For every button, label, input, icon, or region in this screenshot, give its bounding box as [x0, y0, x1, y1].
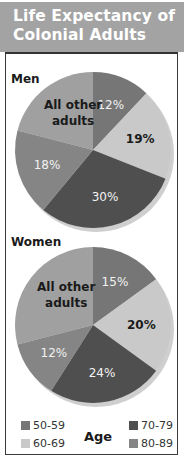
legend-title: Age [84, 429, 112, 444]
slice-label: 24% [89, 366, 116, 380]
slice-label: adults [45, 296, 87, 310]
swatch-60-69 [21, 439, 30, 448]
legend-item-60-69: 60-69 [21, 437, 65, 450]
legend-label: 60-69 [33, 437, 65, 450]
legend-label: 80-89 [141, 437, 173, 450]
legend-item-70-79: 70-79 [129, 419, 173, 432]
slice-label: 12% [41, 346, 68, 360]
women-pie-chart: 15%20%24%12%All otheradults [0, 0, 184, 475]
swatch-50-59 [21, 421, 30, 430]
swatch-80-89 [129, 439, 138, 448]
swatch-70-79 [129, 421, 138, 430]
legend-item-80-89: 80-89 [129, 437, 173, 450]
slice-label: 20% [127, 318, 156, 332]
legend-label: 50-59 [33, 419, 65, 432]
legend-item-50-59: 50-59 [21, 419, 65, 432]
slice-label: All other [37, 280, 95, 294]
legend-label: 70-79 [141, 419, 173, 432]
slice-label: 15% [102, 275, 129, 289]
